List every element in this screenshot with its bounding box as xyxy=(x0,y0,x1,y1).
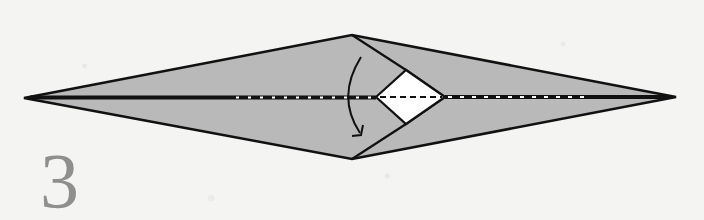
step-number: 3 xyxy=(40,146,79,216)
diagram-canvas: 3 xyxy=(0,0,704,220)
origami-diagram xyxy=(0,0,704,220)
